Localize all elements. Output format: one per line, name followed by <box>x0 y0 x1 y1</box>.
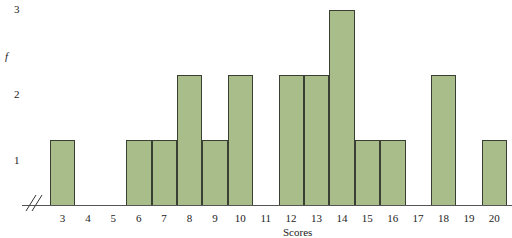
x-tick-20: 20 <box>482 212 507 224</box>
bar-score-16 <box>380 140 405 206</box>
x-tick-11: 11 <box>253 212 278 224</box>
x-axis-line <box>22 205 512 206</box>
bar-score-18 <box>431 75 456 206</box>
bar-score-8 <box>177 75 202 206</box>
y-tick-2: 2 <box>14 88 20 100</box>
x-tick-19: 19 <box>456 212 481 224</box>
x-axis-label: Scores <box>283 226 312 238</box>
bar-score-14 <box>329 10 354 206</box>
x-tick-15: 15 <box>355 212 380 224</box>
bar-score-20 <box>482 140 507 206</box>
y-tick-3: 3 <box>14 3 20 15</box>
axis-break-icon <box>24 194 46 212</box>
x-tick-13: 13 <box>304 212 329 224</box>
bar-score-6 <box>126 140 151 206</box>
bar-score-9 <box>202 140 227 206</box>
y-tick-1: 1 <box>14 154 20 166</box>
bar-score-12 <box>279 75 304 206</box>
x-tick-8: 8 <box>177 212 202 224</box>
x-tick-3: 3 <box>50 212 75 224</box>
y-axis-label: f <box>5 50 8 62</box>
x-tick-5: 5 <box>101 212 126 224</box>
x-tick-16: 16 <box>380 212 405 224</box>
bar-score-13 <box>304 75 329 206</box>
bar-score-7 <box>152 140 177 206</box>
bar-score-3 <box>50 140 75 206</box>
bar-score-15 <box>355 140 380 206</box>
histogram-chart: f 1 2 3 34567891011121314151617181920 Sc… <box>0 0 512 238</box>
x-tick-14: 14 <box>329 212 354 224</box>
x-tick-6: 6 <box>126 212 151 224</box>
x-tick-17: 17 <box>406 212 431 224</box>
x-tick-12: 12 <box>279 212 304 224</box>
bar-score-10 <box>228 75 253 206</box>
x-tick-7: 7 <box>152 212 177 224</box>
x-tick-18: 18 <box>431 212 456 224</box>
x-tick-9: 9 <box>202 212 227 224</box>
x-tick-4: 4 <box>75 212 100 224</box>
x-tick-10: 10 <box>228 212 253 224</box>
